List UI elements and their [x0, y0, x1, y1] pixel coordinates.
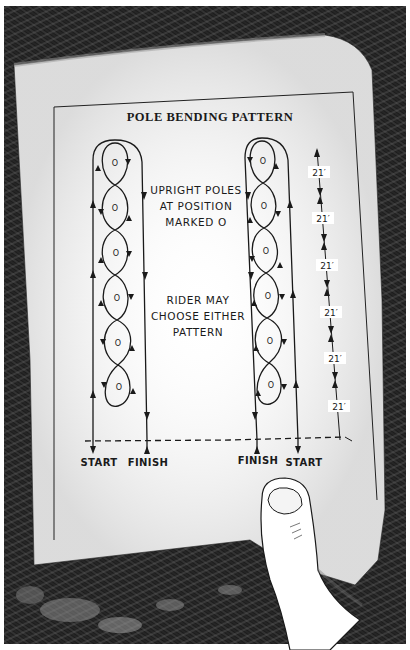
right-start-label: START [285, 457, 322, 468]
pole-marker: O [112, 159, 118, 168]
pole-marker: O [263, 247, 269, 256]
svg-text:MARKED O: MARKED O [165, 216, 227, 228]
pole-marker: O [265, 292, 271, 301]
pole-marker: O [268, 381, 274, 390]
left-finish-label: FINISH [128, 457, 169, 468]
pole-marker: O [116, 383, 122, 392]
pole-marker: O [261, 202, 267, 211]
svg-text:PATTERN: PATTERN [173, 326, 224, 338]
svg-text:UPRIGHT POLES: UPRIGHT POLES [150, 184, 242, 196]
spacing-label: 21′ [328, 354, 342, 364]
pole-marker: O [114, 294, 120, 303]
spacing-label: 21′ [312, 168, 326, 178]
spacing-label: 21′ [332, 402, 346, 412]
pole-marker: O [113, 249, 119, 258]
diagram-title: POLE BENDING PATTERN [127, 110, 294, 124]
pole-marker: O [112, 204, 118, 213]
svg-text:AT POSITION: AT POSITION [160, 200, 233, 212]
spacing-label: 21′ [316, 214, 330, 224]
svg-text:CHOOSE EITHER: CHOOSE EITHER [151, 310, 245, 322]
pole-marker: O [260, 157, 266, 166]
left-start-label: START [80, 457, 117, 468]
pole-marker: O [115, 339, 121, 348]
right-finish-label: FINISH [238, 455, 279, 466]
pole-bending-illustration: POLE BENDING PATTERN O O O O O O [0, 0, 410, 650]
spacing-label: 21′ [324, 308, 338, 318]
pole-marker: O [267, 337, 273, 346]
spacing-label: 21′ [320, 261, 334, 271]
svg-text:RIDER MAY: RIDER MAY [167, 294, 230, 306]
